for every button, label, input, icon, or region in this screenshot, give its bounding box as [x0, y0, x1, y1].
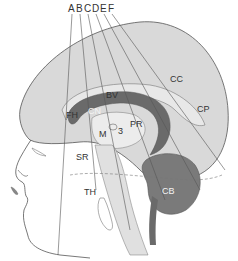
label-m: M	[99, 129, 107, 139]
scan-label-e: E	[100, 3, 107, 14]
label-cp: CP	[197, 104, 210, 114]
nose-detail	[18, 170, 28, 176]
scan-label-a: A	[68, 3, 75, 14]
head-diagram: A B C D E F CC CP BV FH CN PR M 3 SR TH …	[0, 0, 238, 261]
label-cc: CC	[170, 74, 183, 84]
label-cn: CN	[88, 106, 101, 116]
scan-label-b: B	[76, 3, 83, 14]
label-sr: SR	[76, 152, 89, 162]
scan-label-d: D	[92, 3, 100, 14]
label-th: TH	[84, 187, 96, 197]
label-third-ventricle: 3	[118, 126, 123, 136]
fourth-ventricle-stalk	[149, 196, 158, 245]
lip	[11, 187, 18, 195]
label-fh: FH	[66, 110, 78, 120]
label-bv: BV	[106, 90, 118, 100]
label-cb: CB	[162, 186, 175, 196]
scan-label-f: F	[108, 3, 115, 14]
label-pr: PR	[130, 119, 143, 129]
eye-detail	[32, 148, 46, 156]
scan-label-c: C	[84, 3, 92, 14]
